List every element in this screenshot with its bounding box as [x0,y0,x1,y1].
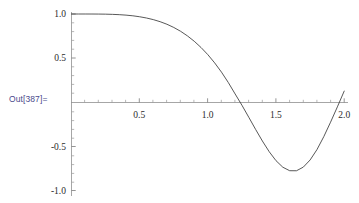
y-tick-label-3: -1.0 [51,186,66,196]
x-tick-label-3: 2.0 [338,110,350,120]
x-axis-major-ticks [139,98,344,102]
x-tick-label-0: 0.5 [133,110,145,120]
mathematica-output-cell: Out[387]= [0,0,359,203]
plot-graphic: 0.5 1.0 1.5 2.0 1.0 0.5 -0.5 -1.0 [0,0,359,203]
y-tick-label-2: -0.5 [51,142,66,152]
plot-curve [72,14,345,171]
y-tick-label-1: 0.5 [54,53,66,63]
x-tick-label-1: 1.0 [202,110,214,120]
x-tick-label-2: 1.5 [270,110,282,120]
y-tick-label-0: 1.0 [54,9,66,19]
